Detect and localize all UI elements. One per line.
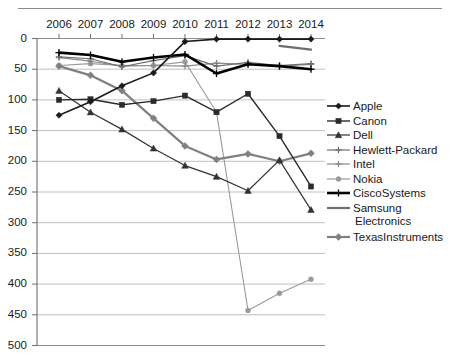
- y-tick-label: 200: [0, 155, 27, 167]
- legend-marker-icon: [326, 186, 351, 200]
- legend-marker-icon: [326, 114, 351, 128]
- legend-marker-icon: [326, 201, 351, 215]
- y-tick-label: 250: [0, 186, 27, 198]
- legend-label: Intel: [351, 158, 375, 170]
- legend-label: Dell: [351, 129, 373, 141]
- legend-label: TexasInstruments: [351, 231, 443, 243]
- legend-item-texasinstruments[interactable]: TexasInstruments: [326, 230, 455, 245]
- y-tick-label: 150: [0, 125, 27, 137]
- gridlines: [37, 39, 325, 346]
- series-dell: [56, 87, 315, 212]
- line-chart: 050100150200250300350400450500 200620072…: [0, 0, 330, 363]
- legend-marker-icon: [326, 157, 351, 171]
- legend-item-hewlett-packard[interactable]: Hewlett-Packard: [326, 143, 455, 158]
- legend-item-intel[interactable]: Intel: [326, 157, 455, 172]
- legend-label-continuation: Electronics: [326, 215, 455, 230]
- y-axis-ticks: [32, 39, 37, 346]
- legend-label: Canon: [351, 115, 387, 127]
- legend-marker-icon: [326, 143, 351, 157]
- y-tick-label: 100: [0, 94, 27, 106]
- legend-item-dell[interactable]: Dell: [326, 128, 455, 143]
- legend-marker-icon: [326, 128, 351, 142]
- y-tick-label: 350: [0, 247, 27, 259]
- legend-label: Apple: [351, 100, 382, 112]
- legend-label: Hewlett-Packard: [351, 144, 437, 156]
- y-tick-label: 450: [0, 309, 27, 321]
- y-tick-label: 50: [0, 63, 27, 75]
- legend-label: Nokia: [351, 173, 382, 185]
- legend-item-canon[interactable]: Canon: [326, 114, 455, 129]
- legend-label: Samsung: [351, 202, 402, 214]
- series-samsung-electronics: [280, 46, 312, 50]
- y-tick-label: 500: [0, 340, 27, 352]
- legend-marker-icon: [326, 99, 351, 113]
- chart-plot-svg: [0, 0, 330, 363]
- legend-item-ciscosystems[interactable]: CiscoSystems: [326, 186, 455, 201]
- legend-item-nokia[interactable]: Nokia: [326, 172, 455, 187]
- x-tick-label: 2014: [291, 19, 331, 31]
- x-axis-ticks: [59, 34, 311, 39]
- legend-label: CiscoSystems: [351, 187, 426, 199]
- series-canon: [56, 91, 313, 189]
- chart-legend: AppleCanonDellHewlett-PackardIntelNokiaC…: [326, 99, 455, 244]
- y-tick-label: 0: [0, 33, 27, 45]
- y-tick-label: 400: [0, 278, 27, 290]
- legend-item-apple[interactable]: Apple: [326, 99, 455, 114]
- legend-marker-icon: [326, 172, 351, 186]
- legend-marker-icon: [326, 230, 351, 244]
- legend-item-samsung[interactable]: Samsung: [326, 201, 455, 216]
- y-tick-label: 300: [0, 217, 27, 229]
